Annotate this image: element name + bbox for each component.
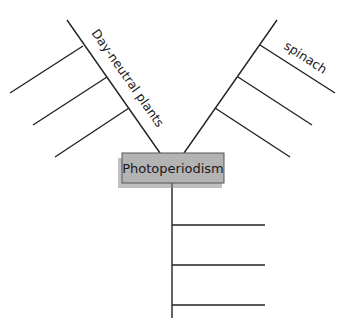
leg-upper-left-branch-3 (55, 108, 129, 157)
leg-upper-right-branch-3 (215, 108, 290, 157)
leg-upper-right: spinach (184, 20, 335, 157)
leg-upper-right-main-line (184, 20, 277, 153)
leg-upper-left-main-line (67, 20, 160, 153)
center-topic: Photoperiodism (118, 153, 224, 188)
spider-map-diagram: Day-neutral plants spinach Photoperiodis… (0, 0, 352, 333)
leg-upper-left-label: Day-neutral plants (89, 26, 168, 130)
leg-upper-left: Day-neutral plants (10, 20, 167, 157)
leg-upper-left-branch-1 (10, 46, 83, 93)
leg-upper-right-label: spinach (281, 38, 330, 77)
center-label: Photoperiodism (122, 161, 224, 176)
leg-upper-left-branch-2 (33, 77, 107, 125)
leg-upper-right-branch-2 (238, 77, 312, 125)
leg-bottom (172, 183, 265, 318)
